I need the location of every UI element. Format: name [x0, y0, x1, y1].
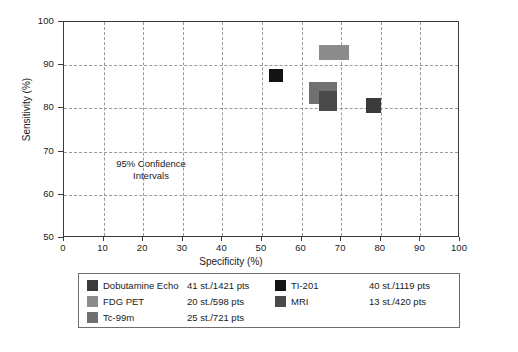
y-tick-mark	[58, 194, 63, 195]
ci-marker-ti-201	[269, 69, 283, 82]
legend-item-stats: 40 st./1119 pts	[369, 278, 430, 293]
y-axis-title: Sensitivity (%)	[21, 40, 32, 180]
gridline-horizontal	[64, 152, 458, 153]
x-axis-title: Specificity (%)	[0, 256, 518, 267]
legend-item-stats: 20 st./598 pts	[187, 294, 244, 309]
x-axis-title-text: Specificity (%)	[199, 256, 262, 267]
y-tick-label: 50	[18, 231, 54, 242]
legend-item[interactable]: MRI13 st./420 pts	[275, 294, 447, 309]
x-tick-label: 0	[43, 242, 83, 253]
y-tick-mark	[58, 21, 63, 22]
confidence-interval-annotation: 95% Confidence Intervals	[88, 158, 214, 182]
x-tick-label: 90	[399, 242, 439, 253]
legend-item[interactable]: Dobutamine Echo41 st./1421 pts	[87, 278, 267, 293]
x-tick-label: 60	[281, 242, 321, 253]
legend-item-label: MRI	[291, 294, 308, 309]
annotation-line-1: 95% Confidence	[88, 158, 214, 170]
x-tick-label: 20	[122, 242, 162, 253]
legend-item[interactable]: FDG PET20 st./598 pts	[87, 294, 267, 309]
gridline-vertical	[104, 22, 105, 236]
y-tick-label: 60	[18, 188, 54, 199]
ci-marker-fdg-pet	[319, 45, 349, 60]
legend-item-stats: 13 st./420 pts	[369, 294, 426, 309]
legend-swatch-icon	[87, 296, 98, 307]
y-tick-mark	[58, 64, 63, 65]
x-tick-label: 40	[201, 242, 241, 253]
legend: Dobutamine Echo41 st./1421 ptsFDG PET20 …	[78, 273, 460, 328]
x-tick-mark	[340, 237, 341, 241]
y-tick-mark	[58, 237, 63, 238]
annotation-line-2: Intervals	[88, 170, 214, 182]
x-tick-mark	[221, 237, 222, 241]
x-tick-mark	[182, 237, 183, 241]
gridline-vertical	[143, 22, 144, 236]
legend-swatch-icon	[275, 280, 286, 291]
x-tick-mark	[459, 237, 460, 241]
gridline-horizontal	[64, 195, 458, 196]
gridline-horizontal	[64, 108, 458, 109]
x-tick-label: 50	[241, 242, 281, 253]
x-tick-label: 80	[360, 242, 400, 253]
legend-swatch-icon	[87, 312, 98, 323]
x-tick-mark	[103, 237, 104, 241]
legend-item-stats: 41 st./1421 pts	[187, 278, 249, 293]
legend-swatch-icon	[275, 296, 286, 307]
x-tick-label: 10	[83, 242, 123, 253]
gridline-horizontal	[64, 65, 458, 66]
gridline-vertical	[183, 22, 184, 236]
legend-item[interactable]: TI-20140 st./1119 pts	[275, 278, 447, 293]
legend-item-label: FDG PET	[103, 294, 144, 309]
ci-marker-dobutamine-echo	[366, 98, 381, 113]
legend-item-label: Tc-99m	[103, 310, 134, 325]
x-tick-mark	[261, 237, 262, 241]
gridline-vertical	[302, 22, 303, 236]
legend-swatch-icon	[87, 280, 98, 291]
x-tick-mark	[63, 237, 64, 241]
x-tick-label: 100	[439, 242, 479, 253]
x-tick-label: 70	[320, 242, 360, 253]
gridline-vertical	[222, 22, 223, 236]
gridline-vertical	[381, 22, 382, 236]
scatter-chart-figure: 0102030405060708090100 5060708090100 Spe…	[0, 0, 518, 352]
gridline-vertical	[262, 22, 263, 236]
y-tick-label: 100	[18, 15, 54, 26]
legend-item-label: TI-201	[291, 278, 318, 293]
x-tick-mark	[142, 237, 143, 241]
x-tick-mark	[419, 237, 420, 241]
legend-item[interactable]: Tc-99m25 st./721 pts	[87, 310, 267, 325]
x-tick-mark	[380, 237, 381, 241]
x-tick-mark	[301, 237, 302, 241]
gridline-vertical	[420, 22, 421, 236]
x-tick-label: 30	[162, 242, 202, 253]
legend-item-stats: 25 st./721 pts	[187, 310, 244, 325]
y-tick-mark	[58, 107, 63, 108]
ci-marker-mri	[319, 91, 337, 110]
y-tick-mark	[58, 151, 63, 152]
legend-item-label: Dobutamine Echo	[103, 278, 179, 293]
plot-area	[63, 21, 459, 237]
